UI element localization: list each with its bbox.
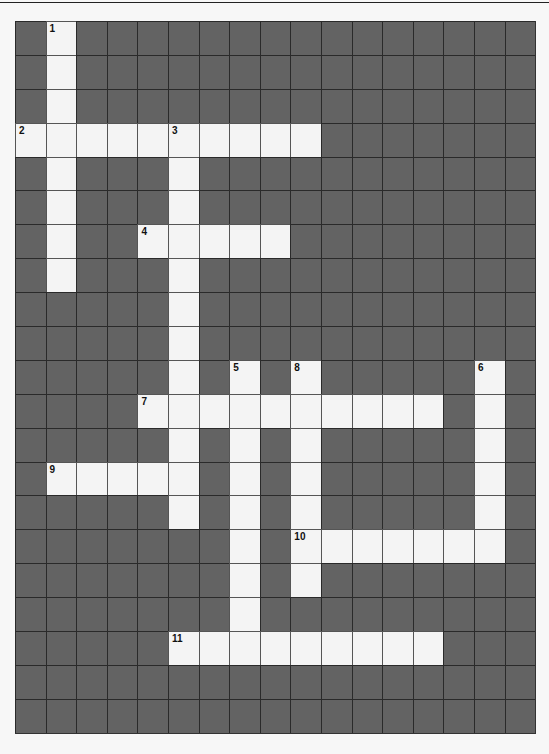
answer-cell[interactable] [260, 224, 291, 258]
answer-cell[interactable] [107, 462, 138, 496]
answer-cell[interactable] [229, 495, 260, 529]
answer-cell[interactable] [290, 462, 321, 496]
block-cell [107, 190, 138, 224]
answer-cell[interactable] [46, 157, 77, 191]
answer-cell[interactable] [168, 495, 199, 529]
answer-cell[interactable] [168, 326, 199, 360]
block-cell [15, 326, 46, 360]
block-cell [505, 326, 536, 360]
answer-cell[interactable] [290, 428, 321, 462]
answer-cell[interactable] [229, 597, 260, 631]
answer-cell[interactable] [413, 394, 444, 428]
block-cell [382, 495, 413, 529]
block-cell [260, 462, 291, 496]
answer-cell[interactable] [413, 529, 444, 563]
answer-cell[interactable] [382, 394, 413, 428]
answer-cell[interactable] [168, 360, 199, 394]
answer-cell[interactable] [168, 394, 199, 428]
answer-cell[interactable] [352, 631, 383, 665]
answer-cell[interactable] [474, 428, 505, 462]
answer-cell[interactable]: 4 [137, 224, 168, 258]
answer-cell[interactable] [229, 631, 260, 665]
answer-cell[interactable] [474, 495, 505, 529]
answer-cell[interactable] [229, 563, 260, 597]
answer-cell[interactable] [168, 224, 199, 258]
block-cell [15, 258, 46, 292]
answer-cell[interactable] [76, 123, 107, 157]
answer-cell[interactable] [290, 394, 321, 428]
answer-cell[interactable] [168, 462, 199, 496]
answer-cell[interactable]: 10 [290, 529, 321, 563]
block-cell [199, 360, 230, 394]
answer-cell[interactable] [199, 631, 230, 665]
answer-cell[interactable] [168, 258, 199, 292]
answer-cell[interactable] [199, 394, 230, 428]
answer-cell[interactable] [321, 631, 352, 665]
answer-cell[interactable] [229, 394, 260, 428]
answer-cell[interactable] [46, 224, 77, 258]
answer-cell[interactable] [474, 394, 505, 428]
block-cell [46, 699, 77, 733]
block-cell [413, 563, 444, 597]
answer-cell[interactable] [382, 529, 413, 563]
answer-cell[interactable] [199, 123, 230, 157]
answer-cell[interactable] [290, 495, 321, 529]
answer-cell[interactable]: 9 [46, 462, 77, 496]
block-cell [168, 597, 199, 631]
answer-cell[interactable] [290, 123, 321, 157]
answer-cell[interactable] [137, 462, 168, 496]
answer-cell[interactable] [168, 428, 199, 462]
answer-cell[interactable] [229, 462, 260, 496]
answer-cell[interactable] [321, 529, 352, 563]
block-cell [352, 190, 383, 224]
answer-cell[interactable] [290, 563, 321, 597]
block-cell [107, 665, 138, 699]
answer-cell[interactable] [168, 190, 199, 224]
answer-cell[interactable]: 3 [168, 123, 199, 157]
answer-cell[interactable] [413, 631, 444, 665]
answer-cell[interactable] [229, 224, 260, 258]
answer-cell[interactable] [46, 55, 77, 89]
answer-cell[interactable] [46, 123, 77, 157]
block-cell [199, 462, 230, 496]
answer-cell[interactable]: 6 [474, 360, 505, 394]
answer-cell[interactable] [76, 462, 107, 496]
answer-cell[interactable] [199, 224, 230, 258]
answer-cell[interactable] [474, 462, 505, 496]
answer-cell[interactable] [168, 157, 199, 191]
answer-cell[interactable] [46, 258, 77, 292]
answer-cell[interactable] [352, 529, 383, 563]
answer-cell[interactable]: 11 [168, 631, 199, 665]
answer-cell[interactable]: 5 [229, 360, 260, 394]
block-cell [15, 224, 46, 258]
answer-cell[interactable] [443, 529, 474, 563]
answer-cell[interactable] [260, 631, 291, 665]
answer-cell[interactable] [46, 89, 77, 123]
answer-cell[interactable] [229, 529, 260, 563]
block-cell [443, 360, 474, 394]
answer-cell[interactable]: 2 [15, 123, 46, 157]
block-cell [321, 21, 352, 55]
block-cell [76, 21, 107, 55]
answer-cell[interactable] [474, 529, 505, 563]
answer-cell[interactable] [229, 428, 260, 462]
block-cell [76, 190, 107, 224]
answer-cell[interactable] [260, 394, 291, 428]
answer-cell[interactable] [229, 123, 260, 157]
answer-cell[interactable] [107, 123, 138, 157]
block-cell [260, 597, 291, 631]
answer-cell[interactable] [352, 394, 383, 428]
answer-cell[interactable] [260, 123, 291, 157]
block-cell [290, 157, 321, 191]
block-cell [505, 292, 536, 326]
answer-cell[interactable]: 7 [137, 394, 168, 428]
answer-cell[interactable] [321, 394, 352, 428]
answer-cell[interactable] [290, 631, 321, 665]
answer-cell[interactable] [382, 631, 413, 665]
block-cell [15, 157, 46, 191]
answer-cell[interactable] [46, 190, 77, 224]
answer-cell[interactable]: 8 [290, 360, 321, 394]
answer-cell[interactable] [168, 292, 199, 326]
answer-cell[interactable] [137, 123, 168, 157]
answer-cell[interactable]: 1 [46, 21, 77, 55]
